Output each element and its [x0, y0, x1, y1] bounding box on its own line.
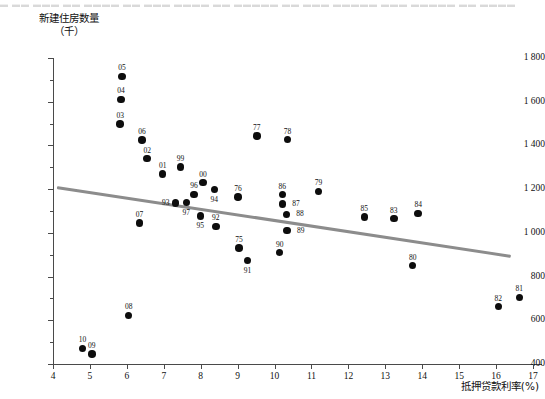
point-label: 77 [253, 123, 261, 132]
y-tick-minor [50, 124, 54, 125]
scatter-point [159, 170, 167, 178]
scatter-point [283, 227, 291, 235]
scatter-point [117, 96, 125, 104]
point-label: 03 [116, 111, 124, 120]
point-label: 79 [315, 178, 323, 187]
point-label: 82 [495, 294, 503, 303]
point-label: 94 [211, 195, 219, 204]
scatter-point [212, 223, 220, 231]
point-label: 10 [79, 335, 87, 344]
x-tick-label: 6 [115, 371, 139, 381]
y-tick-major [48, 145, 54, 146]
x-tick [275, 364, 276, 369]
scatter-point [125, 312, 133, 320]
point-label: 89 [297, 226, 305, 235]
scatter-point [279, 191, 287, 199]
x-tick [422, 364, 423, 369]
scatter-point [315, 188, 323, 196]
point-label: 02 [143, 146, 151, 155]
x-tick-label: 7 [152, 371, 176, 381]
scatter-point [138, 136, 146, 144]
x-tick [533, 364, 534, 369]
scatter-point [211, 186, 219, 194]
y-axis-label-line1: 新建住房数量 [14, 12, 124, 25]
point-label: 92 [212, 213, 220, 222]
x-tick-label: 14 [410, 371, 434, 381]
x-tick-label: 10 [263, 371, 287, 381]
x-tick [348, 364, 349, 369]
y-tick-label: 1 000 [503, 227, 545, 237]
point-label: 00 [199, 170, 207, 179]
y-tick-major [48, 189, 54, 190]
point-label: 97 [183, 208, 191, 217]
x-tick [238, 364, 239, 369]
scatter-point [118, 73, 126, 81]
scatter-point [136, 219, 144, 227]
x-tick [385, 364, 386, 369]
y-tick-major [48, 320, 54, 321]
y-tick-label: 600 [503, 314, 545, 324]
point-label: 87 [292, 199, 300, 208]
x-tick-label: 12 [336, 371, 360, 381]
y-tick-minor [50, 298, 54, 299]
scatter-point [197, 212, 205, 220]
scatter-point [284, 136, 292, 144]
x-tick [90, 364, 91, 369]
point-label: 04 [117, 86, 125, 95]
point-label: 85 [361, 204, 369, 213]
scatter-point [79, 345, 87, 353]
scatter-point [279, 200, 287, 208]
y-tick-label: 1 800 [503, 52, 545, 62]
y-tick-minor [50, 211, 54, 212]
point-label: 05 [118, 63, 126, 72]
x-tick [311, 364, 312, 369]
point-label: 88 [296, 209, 304, 218]
point-label: 86 [279, 182, 287, 191]
top-cutoff-text: ▬ ▬▬ ▬▬▬ ▬▬ ▬▬▬▬ ▬▬ ▬▬▬ ▬▬▬▬ ▬▬ ▬▬▬▬▬ ▬▬… [0, 0, 545, 9]
y-tick-label: 1 400 [503, 139, 545, 149]
x-tick [496, 364, 497, 369]
y-tick-minor [50, 255, 54, 256]
y-tick-label: 800 [503, 271, 545, 281]
point-label: 75 [235, 235, 243, 244]
y-tick-major [48, 58, 54, 59]
point-label: 96 [190, 181, 198, 190]
point-label: 80 [409, 253, 417, 262]
point-label: 01 [159, 161, 167, 170]
scatter-point [414, 210, 422, 218]
x-tick-label: 8 [189, 371, 213, 381]
point-label: 90 [276, 240, 284, 249]
y-tick-major [48, 102, 54, 103]
point-label: 81 [516, 284, 524, 293]
point-label: 78 [284, 127, 292, 136]
x-tick-label: 4 [41, 371, 65, 381]
y-tick-minor [50, 80, 54, 81]
point-label: 08 [125, 302, 133, 311]
x-tick [201, 364, 202, 369]
scatter-point [88, 350, 96, 358]
point-label: 91 [244, 266, 252, 275]
x-axis-label: 抵押贷款利率(%) [461, 378, 539, 393]
scatter-point [244, 257, 252, 265]
point-label: 93 [162, 198, 170, 207]
point-label: 06 [138, 127, 146, 136]
scatter-point [516, 294, 524, 302]
scatter-point [143, 155, 151, 163]
scatter-point [409, 262, 417, 270]
chart-canvas: ▬ ▬▬ ▬▬▬ ▬▬ ▬▬▬▬ ▬▬ ▬▬▬ ▬▬▬▬ ▬▬ ▬▬▬▬▬ ▬▬… [0, 0, 545, 399]
scatter-point [116, 120, 124, 128]
y-tick-label: 400 [503, 358, 545, 368]
scatter-point [235, 244, 243, 252]
point-label: 76 [234, 184, 242, 193]
y-tick-minor [50, 167, 54, 168]
scatter-point [283, 211, 291, 219]
y-tick-label: 1 200 [503, 183, 545, 193]
point-label: 07 [136, 210, 144, 219]
y-tick-major [48, 277, 54, 278]
scatter-point [390, 215, 398, 223]
x-tick-label: 5 [78, 371, 102, 381]
y-tick-minor [50, 342, 54, 343]
x-tick [127, 364, 128, 369]
point-label: 83 [390, 206, 398, 215]
point-label: 09 [88, 341, 96, 350]
